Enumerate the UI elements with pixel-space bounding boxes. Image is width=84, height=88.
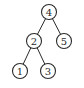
node-label: 2 — [31, 36, 37, 47]
node-label: 5 — [61, 36, 67, 47]
edge-4-2 — [37, 19, 45, 35]
tree-node-3: 3 — [41, 64, 56, 79]
tree-node-1: 1 — [13, 64, 28, 79]
binary-tree-diagram: 42513 — [0, 0, 84, 88]
edge-2-1 — [23, 48, 31, 64]
tree-node-4: 4 — [42, 5, 57, 20]
node-label: 1 — [17, 66, 23, 77]
tree-node-5: 5 — [57, 34, 72, 49]
edge-4-5 — [52, 19, 60, 35]
nodes-group: 42513 — [13, 5, 72, 79]
edge-2-3 — [37, 48, 45, 64]
node-label: 3 — [45, 66, 51, 77]
tree-node-2: 2 — [27, 34, 42, 49]
tree-canvas: 42513 — [0, 0, 84, 88]
node-label: 4 — [46, 7, 52, 18]
